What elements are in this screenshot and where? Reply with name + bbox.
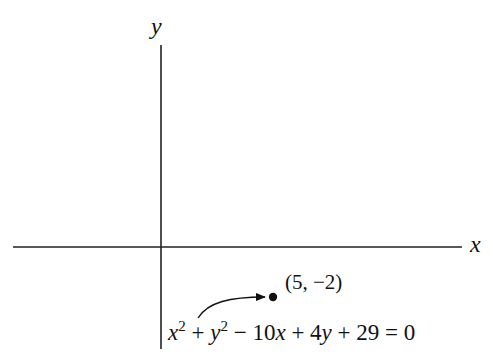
eq-linear-x: x [275, 320, 285, 345]
diagram-canvas: y x (5, −2) x2 + y2 − 10x + 4y + 29 = 0 [0, 0, 493, 363]
point-label: (5, −2) [285, 272, 342, 293]
circle-equation: x2 + y2 − 10x + 4y + 29 = 0 [168, 321, 415, 344]
diagram-graphics [0, 0, 493, 363]
eq-plus-four: + 4 [286, 320, 322, 345]
eq-plus: + [186, 320, 210, 345]
x-axis-label: x [470, 232, 481, 256]
y-axis-label: y [151, 14, 162, 38]
point-marker [269, 293, 277, 301]
pointer-arrow [198, 297, 265, 318]
eq-y-exponent: 2 [220, 318, 228, 334]
eq-constant: + 29 = 0 [332, 320, 415, 345]
eq-x-exponent: 2 [178, 318, 186, 334]
eq-linear-y: y [322, 320, 332, 345]
eq-y-term: y [210, 320, 220, 345]
eq-x-term: x [168, 320, 178, 345]
eq-minus-ten: − 10 [228, 320, 275, 345]
